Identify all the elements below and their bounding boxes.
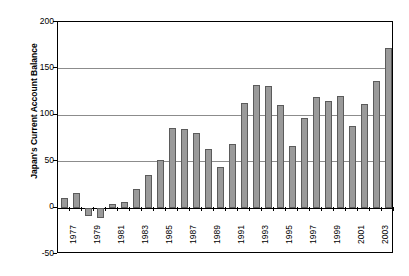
x-tick-mark <box>345 207 346 211</box>
x-tick-mark <box>57 207 58 211</box>
x-tick-mark <box>261 207 262 211</box>
x-tick-mark <box>93 207 94 211</box>
x-tick-label: 1993 <box>260 210 270 244</box>
x-tick-label: 1983 <box>140 210 150 244</box>
x-tick-mark <box>189 207 190 211</box>
x-tick-label: 1997 <box>308 210 318 244</box>
x-tick-mark <box>237 207 238 211</box>
bar <box>277 105 284 208</box>
x-tick-label: 1981 <box>116 210 126 244</box>
x-tick-mark <box>165 207 166 211</box>
x-tick-label: 1987 <box>188 210 198 244</box>
bar <box>373 81 380 207</box>
bar <box>313 97 320 207</box>
x-tick-mark <box>117 207 118 211</box>
bar <box>145 175 152 207</box>
x-tick-mark <box>177 207 178 211</box>
x-tick-mark <box>81 207 82 211</box>
x-tick-mark <box>201 207 202 211</box>
x-tick-label: 1991 <box>236 210 246 244</box>
bar <box>133 189 140 208</box>
bar <box>241 103 248 208</box>
bar <box>337 96 344 207</box>
y-tick-label: 200 <box>28 17 54 26</box>
x-tick-mark <box>357 207 358 211</box>
y-tick-mark <box>53 67 57 68</box>
x-tick-mark <box>285 207 286 211</box>
y-tick-label: 0 <box>28 202 54 211</box>
bar <box>301 118 308 208</box>
bar <box>325 101 332 208</box>
y-tick-mark <box>53 114 57 115</box>
y-tick-label: -50 <box>28 249 54 258</box>
bar <box>217 167 224 208</box>
x-tick-label: 1979 <box>92 210 102 244</box>
bar <box>181 129 188 208</box>
x-tick-mark <box>309 207 310 211</box>
x-tick-mark <box>333 207 334 211</box>
x-tick-mark <box>141 207 142 211</box>
x-tick-mark <box>321 207 322 211</box>
x-tick-mark <box>225 207 226 211</box>
x-tick-label: 1995 <box>284 210 294 244</box>
x-tick-mark <box>249 207 250 211</box>
bar <box>109 204 116 208</box>
bar <box>289 146 296 207</box>
y-tick-label: 50 <box>28 156 54 165</box>
x-tick-mark <box>369 207 370 211</box>
x-tick-label: 2001 <box>356 210 366 244</box>
y-tick-mark <box>53 160 57 161</box>
x-tick-mark <box>153 207 154 211</box>
x-tick-mark <box>69 207 70 211</box>
bar <box>169 128 176 208</box>
x-tick-label: 1999 <box>332 210 342 244</box>
bar-chart: Japan's Current Account Balance 20015010… <box>0 0 409 276</box>
bar <box>265 86 272 208</box>
x-tick-label: 2003 <box>380 210 390 244</box>
bar <box>253 85 260 207</box>
bar <box>157 160 164 207</box>
bar <box>361 104 368 208</box>
bar <box>73 193 80 208</box>
y-tick-mark <box>53 21 57 22</box>
x-tick-mark <box>129 207 130 211</box>
bar <box>385 48 392 208</box>
x-tick-mark <box>297 207 298 211</box>
bar <box>193 133 200 207</box>
x-tick-label: 1985 <box>164 210 174 244</box>
x-tick-mark <box>393 207 394 211</box>
x-axis-tick-labels: 1977197919811983198519871989199119931995… <box>57 210 393 256</box>
bar <box>349 126 356 208</box>
bar <box>61 198 68 207</box>
x-tick-mark <box>273 207 274 211</box>
x-tick-mark <box>381 207 382 211</box>
y-tick-mark <box>53 253 57 254</box>
y-axis-tick-labels: 200150100500-50 <box>24 0 54 276</box>
bar <box>229 144 236 207</box>
bar <box>121 202 128 208</box>
y-tick-label: 150 <box>28 63 54 72</box>
x-tick-mark <box>213 207 214 211</box>
x-tick-label: 1989 <box>212 210 222 244</box>
bar <box>205 149 212 207</box>
x-tick-label: 1977 <box>68 210 78 244</box>
x-tick-mark <box>105 207 106 211</box>
y-tick-label: 100 <box>28 109 54 118</box>
